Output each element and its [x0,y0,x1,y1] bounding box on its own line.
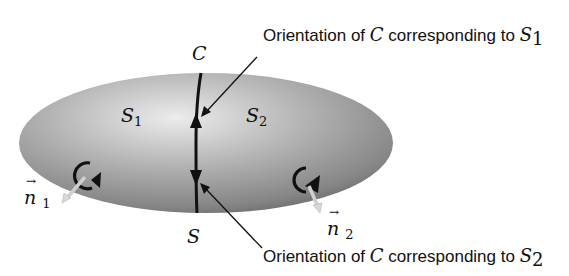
region-label-s2: S2 [246,104,267,129]
normal-label-n1: → n 1 [24,186,51,211]
annotation-s1-prefix: Orientation of [263,26,370,45]
normal-n1-symbol: n [24,186,36,208]
surface-ellipsoid [19,73,393,213]
annotation-s1-sub: 1 [532,28,543,49]
normal-n2-symbol: n [327,217,339,239]
region-label-s2-sub: 2 [259,114,267,129]
annotation-s2-sym: S [520,245,532,266]
curve-label-c: C [192,42,207,64]
annotation-s2-var: C [370,245,384,266]
annotation-s2-sub: 2 [532,249,543,270]
normal-n2-vector-arrow: → [329,205,339,219]
annotation-s1-middle: corresponding to [384,26,520,45]
surface-label-s: S [187,225,200,247]
region-label-s1: S1 [121,104,142,129]
annotation-s1-sym: S [520,24,532,45]
annotation-s2: Orientation of C corresponding to S2 [263,245,543,270]
normal-n1-vector-arrow: → [26,174,36,188]
annotation-s1-var: C [370,24,384,45]
region-label-s1-sub: 1 [134,114,142,129]
annotation-s1: Orientation of C corresponding to S1 [263,24,543,49]
normal-n2-sub: 2 [345,227,353,242]
annotation-s2-middle: corresponding to [384,247,520,266]
region-label-s1-symbol: S [121,104,134,126]
normal-n1-sub: 1 [42,196,50,211]
annotation-s2-prefix: Orientation of [263,247,370,266]
normal-label-n2: → n 2 [327,217,354,242]
region-label-s2-symbol: S [246,104,259,126]
